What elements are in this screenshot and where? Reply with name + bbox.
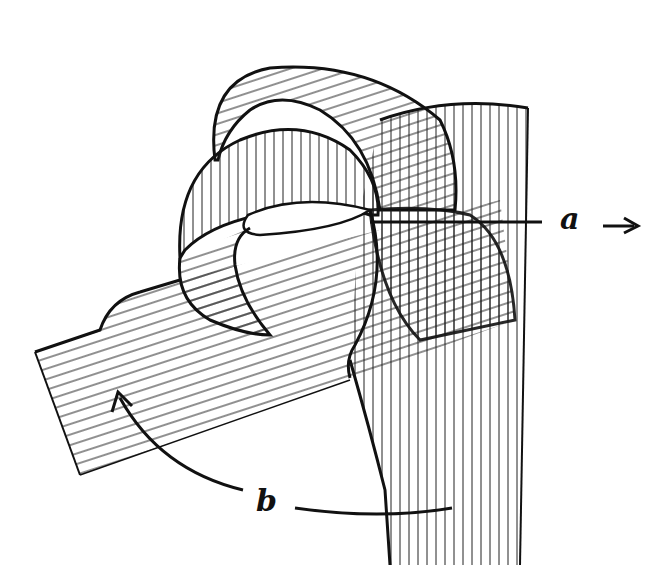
diagram-canvas: a b xyxy=(0,0,667,588)
label-b: b xyxy=(256,486,277,516)
arrow-right-icon xyxy=(603,218,638,233)
label-a: a xyxy=(560,204,579,234)
strip-join-drawing xyxy=(0,0,667,588)
